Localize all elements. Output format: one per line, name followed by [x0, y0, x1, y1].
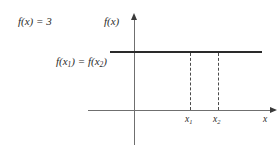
- x-tick-x2-sub: 2: [217, 118, 220, 125]
- y-axis-label: f(x): [104, 16, 119, 27]
- x-axis-label: x: [263, 115, 267, 125]
- x-axis-arrow-icon: [270, 107, 277, 113]
- function-definition-label: f(x) = 3: [18, 16, 52, 27]
- y-axis-arrow-icon: [131, 13, 137, 20]
- equal-outputs-middle: ) = f(x: [71, 55, 99, 67]
- equal-outputs-tail: ): [103, 55, 107, 67]
- x-tick-label-x2: x2: [213, 115, 220, 125]
- dropline-x1: [190, 53, 191, 110]
- dropline-x2: [218, 53, 219, 110]
- constant-function-figure: f(x) = 3 f(x) f(x1) = f(x2) x1 x2 x: [0, 0, 279, 162]
- constant-function-line: [110, 51, 262, 53]
- x-tick-label-x1: x1: [185, 115, 192, 125]
- y-axis: [134, 19, 135, 145]
- equal-outputs-label: f(x1) = f(x2): [56, 56, 107, 68]
- x-axis: [88, 110, 272, 111]
- x-tick-x1-sub: 1: [189, 118, 192, 125]
- equal-outputs-lead: f(x: [56, 55, 68, 67]
